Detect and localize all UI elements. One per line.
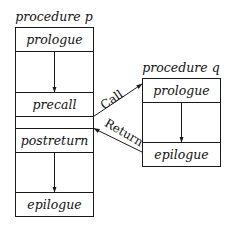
procedure-p-title: procedure p [15,9,92,24]
p-postreturn-label: postreturn [21,133,88,148]
procedure-call-diagram: procedure p prologue precall postreturn … [0,0,228,228]
call-label: Call [98,87,126,112]
q-prologue-label: prologue [153,83,209,98]
q-epilogue-label: epilogue [154,147,208,162]
p-precall-label: precall [33,97,77,112]
return-label: Return [102,116,146,149]
p-prologue-label: prologue [26,32,82,47]
procedure-q: procedure q prologue epilogue [142,60,220,167]
procedure-p: procedure p prologue precall postreturn … [15,9,93,217]
edges: Call Return [94,84,146,152]
p-epilogue-label: epilogue [27,197,81,212]
procedure-q-title: procedure q [142,60,219,75]
